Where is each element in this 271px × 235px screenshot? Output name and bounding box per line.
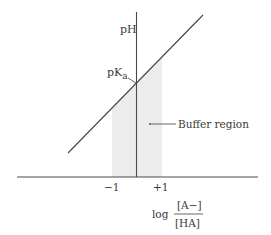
- tick-label-plus-1: +1: [153, 181, 168, 193]
- tick-label-minus-1: −1: [104, 181, 119, 193]
- pka-leader: [128, 78, 136, 83]
- pka-label: pKa: [107, 66, 128, 81]
- buffer-diagram: pH pKa Buffer region −1 +1 log [A−] [HA]: [0, 0, 271, 235]
- buffer-leader-dot: [149, 123, 151, 125]
- x-axis-label-denominator: [HA]: [175, 217, 200, 229]
- x-axis-label-numerator: [A−]: [177, 199, 202, 211]
- x-axis-label-log: log: [152, 208, 169, 220]
- buffer-region-label: Buffer region: [178, 118, 249, 130]
- pka-label-sub: a: [122, 71, 128, 81]
- y-axis-label: pH: [120, 23, 137, 36]
- pka-label-main: pK: [107, 66, 123, 79]
